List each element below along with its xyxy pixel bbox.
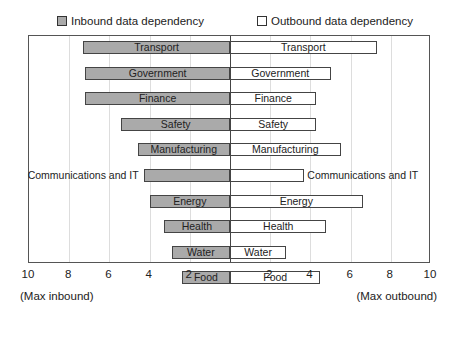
x-tick-label: 4	[306, 268, 312, 280]
inbound-bar: Transport	[83, 41, 230, 54]
outbound-bar: Health	[230, 220, 326, 233]
inbound-bar: Safety	[121, 118, 230, 131]
inbound-bar: Finance	[85, 92, 230, 105]
x-tick-label: 6	[105, 268, 111, 280]
x-tick-label: 4	[145, 268, 151, 280]
axis-note-left: (Max inbound)	[20, 290, 94, 302]
plot-area: TransportTransportGovernmentGovernmentFi…	[28, 35, 430, 263]
outbound-bar: Government	[230, 67, 331, 80]
x-tick-label: 2	[186, 268, 192, 280]
axis-note-right: (Max outbound)	[356, 290, 437, 302]
x-tick-label: 2	[266, 268, 272, 280]
legend-inbound: Inbound data dependency	[57, 15, 204, 27]
x-tick-label: 10	[424, 268, 437, 280]
gridline	[69, 36, 70, 262]
outbound-bar	[230, 169, 304, 182]
legend-inbound-label: Inbound data dependency	[71, 15, 204, 27]
inbound-bar: Manufacturing	[138, 143, 230, 156]
outbound-bar: Transport	[230, 41, 377, 54]
x-tick-label: 8	[387, 268, 393, 280]
inbound-bar: Health	[164, 220, 230, 233]
outbound-bar: Energy	[230, 195, 363, 208]
outbound-bar: Finance	[230, 92, 316, 105]
gridline	[351, 36, 352, 262]
outbound-swatch-icon	[257, 16, 267, 26]
legend-outbound: Outbound data dependency	[257, 15, 413, 27]
outbound-bar: Manufacturing	[230, 143, 341, 156]
inbound-bar	[144, 169, 230, 182]
outbound-bar: Water	[230, 246, 286, 259]
inbound-bar: Government	[85, 67, 230, 80]
x-tick-label: 8	[65, 268, 71, 280]
outbound-bar: Safety	[230, 118, 316, 131]
inbound-bar-label: Communications and IT	[28, 169, 139, 182]
x-tick-label: 6	[346, 268, 352, 280]
outbound-bar-label: Communications and IT	[307, 169, 418, 182]
inbound-bar: Energy	[150, 195, 230, 208]
x-tick-label: 10	[22, 268, 35, 280]
gridline	[391, 36, 392, 262]
inbound-bar: Water	[172, 246, 230, 259]
legend-outbound-label: Outbound data dependency	[271, 15, 413, 27]
inbound-swatch-icon	[57, 16, 67, 26]
